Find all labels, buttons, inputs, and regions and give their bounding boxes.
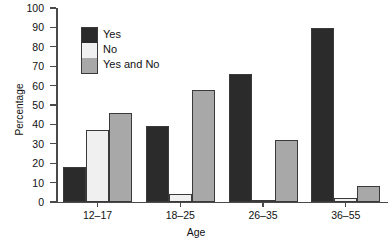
y-tick-label: 60: [18, 81, 44, 91]
y-tick-label: 80: [18, 42, 44, 52]
bar-yes-and-no: [357, 186, 380, 202]
x-tick-mark: [97, 202, 98, 207]
x-tick-label: 36–55: [301, 209, 391, 221]
bar-yes: [311, 28, 334, 202]
x-tick-label: 18–25: [135, 209, 225, 221]
y-tick-label: 10: [18, 178, 44, 188]
bar-group: [229, 8, 298, 202]
legend-swatch-box: [81, 27, 98, 74]
y-tick-label: 20: [18, 158, 44, 168]
legend-swatch-yes-and-no: [82, 58, 97, 73]
bar-chart: Percentage 1009080706050403020100 12–171…: [0, 0, 392, 242]
legend-label-yes-and-no: Yes and No: [103, 57, 159, 72]
bar-yes: [229, 74, 252, 202]
bar-yes-and-no: [275, 140, 298, 202]
legend-swatch-no: [82, 43, 97, 58]
legend-label-no: No: [103, 42, 117, 57]
bar-group: [311, 8, 380, 202]
y-tick-label: 90: [18, 22, 44, 32]
bar-yes: [63, 167, 86, 202]
x-tick-mark: [180, 202, 181, 207]
bar-yes: [146, 126, 169, 202]
y-tick-label: 30: [18, 139, 44, 149]
bar-no: [86, 130, 109, 202]
legend-label-yes: Yes: [103, 27, 121, 42]
y-tick-label: 70: [18, 61, 44, 71]
x-tick-label: 12–17: [53, 209, 143, 221]
bar-yes-and-no: [109, 113, 132, 202]
x-tick-label: 26–35: [218, 209, 308, 221]
x-axis-title: Age: [0, 226, 392, 238]
legend-swatch-yes: [82, 28, 97, 43]
bar-yes-and-no: [192, 90, 215, 202]
x-tick-mark: [262, 202, 263, 207]
y-tick-label: 100: [18, 3, 44, 13]
y-tick-label: 50: [18, 100, 44, 110]
bar-no: [169, 194, 192, 202]
x-tick-mark: [345, 202, 346, 207]
y-tick-label: 0: [18, 197, 44, 207]
y-tick-label: 40: [18, 119, 44, 129]
bar-group: [146, 8, 215, 202]
